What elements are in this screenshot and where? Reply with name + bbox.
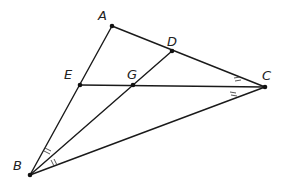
point-C: [263, 85, 268, 90]
segment-AB: [30, 26, 112, 175]
point-E: [78, 83, 83, 88]
point-D: [170, 49, 175, 54]
label-B: B: [13, 158, 22, 173]
point-G: [131, 83, 136, 88]
segment-EC: [80, 85, 265, 87]
point-A: [110, 24, 115, 29]
segment-BD: [30, 51, 172, 175]
label-G: G: [127, 67, 137, 82]
point-B: [28, 173, 33, 178]
segment-BC: [30, 87, 265, 175]
label-D: D: [167, 34, 177, 49]
label-A: A: [97, 8, 107, 23]
label-C: C: [262, 68, 272, 83]
triangle-diagram: A B C D E G: [0, 0, 282, 186]
angle-mark-C-lower: [230, 92, 237, 96]
label-E: E: [64, 67, 73, 82]
